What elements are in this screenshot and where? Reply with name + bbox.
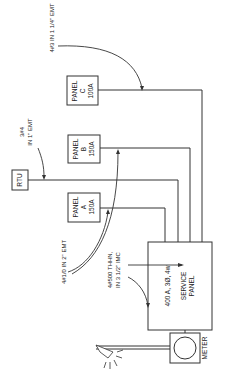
- callout-arrow-rtu: [38, 148, 44, 177]
- callout-service-2: IN 3 1/2" IMC: [115, 251, 121, 287]
- callout-rtu-2: IN 1" EMT: [27, 118, 33, 146]
- svg-text:PANEL: PANEL: [72, 196, 79, 217]
- svg-text:B: B: [80, 147, 87, 151]
- meter: METER: [170, 333, 208, 363]
- svg-text:A: A: [80, 204, 87, 209]
- callout-panel-ab: 4#1/0 IN 2" EMT: [61, 240, 67, 284]
- svg-text:150A: 150A: [88, 199, 95, 215]
- service-drop-line: [96, 346, 170, 349]
- callout-panel-c: 4#3 IN 1 1/4" EMT: [49, 3, 55, 52]
- service-panel: 400 A, 3Ø, 4w SERVICE PANEL: [148, 242, 212, 330]
- panel-a: PANEL A 150A: [68, 193, 100, 222]
- callout-service-1: 4#500 THHN,: [107, 251, 113, 288]
- rtu: RTU: [12, 170, 28, 190]
- svg-text:PANEL: PANEL: [71, 80, 78, 101]
- panel-b: PANEL B 150A: [68, 135, 100, 163]
- callout-arrow-service-drop: [128, 277, 148, 306]
- svg-text:METER: METER: [201, 336, 208, 359]
- feeder-line-panel-a: [100, 208, 165, 242]
- svg-text:150A: 150A: [88, 141, 95, 157]
- panel-c: PANEL C 100A: [67, 76, 98, 105]
- arrowhead-panel-b: [116, 149, 120, 154]
- svg-text:PANEL: PANEL: [188, 275, 195, 296]
- svg-text:PANEL: PANEL: [72, 138, 79, 159]
- svg-text:SERVICE: SERVICE: [180, 271, 187, 300]
- svg-text:C: C: [79, 88, 86, 93]
- arrowhead-rtu: [42, 175, 46, 180]
- svg-text:400 A, 3Ø, 4w: 400 A, 3Ø, 4w: [164, 265, 171, 306]
- feeder-line-panel-b: [100, 148, 190, 242]
- feeder-line-panel-c: [98, 90, 202, 242]
- svg-text:RTU: RTU: [16, 173, 23, 187]
- arrowhead-panel-a: [106, 209, 110, 214]
- svg-text:100A: 100A: [87, 83, 94, 99]
- single-line-diagram: PANEL C 100A PANEL B 150A RTU PANEL A 15…: [0, 0, 226, 379]
- callout-rtu-1: 3#4: [19, 126, 25, 137]
